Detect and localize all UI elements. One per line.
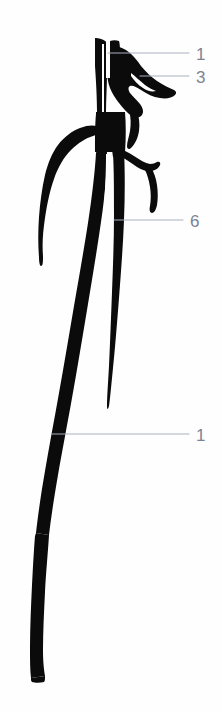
angiogram-silhouette: 1 3 6 1 [0, 0, 222, 712]
label-1-top: 1 [196, 45, 205, 64]
mid-confluence [95, 112, 126, 152]
upper-vessel-hairline [102, 44, 104, 112]
top-trunk-separation-gap [106, 40, 110, 78]
label-6: 6 [190, 212, 199, 231]
figure-container: 1 3 6 1 [0, 0, 222, 712]
label-1-bottom: 1 [196, 426, 205, 445]
label-3: 3 [196, 68, 205, 87]
